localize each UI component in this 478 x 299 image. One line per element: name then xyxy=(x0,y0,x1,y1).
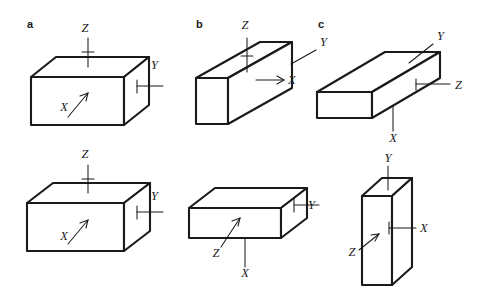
block-c-bottom xyxy=(359,166,416,285)
figure-container: a b c Z Y X Z Y X Z Y X Y Z X Y Z X Y X … xyxy=(0,0,478,299)
block-b-top xyxy=(196,38,316,124)
block-a-top xyxy=(31,38,163,125)
panel-letter-a: a xyxy=(27,18,34,30)
axis-label-y: Y xyxy=(151,58,160,72)
block-b-top-left-face xyxy=(196,78,228,124)
block-c-bottom-front-face xyxy=(362,196,392,285)
axis-label-z: Z xyxy=(455,78,463,92)
axis-label-x: X xyxy=(287,73,297,87)
panel-letter-c: c xyxy=(318,18,324,30)
block-b-bottom xyxy=(189,188,319,267)
axis-orientation-figure: a b c Z Y X Z Y X Z Y X Y Z X Y Z X Y X … xyxy=(0,0,478,299)
axis-label-z: Z xyxy=(242,18,250,32)
block-c-top xyxy=(317,44,450,131)
axis-label-y: Y xyxy=(320,35,329,49)
block-c-bottom-right-face xyxy=(392,178,412,285)
axis-label-x: X xyxy=(59,100,69,114)
axis-label-x: X xyxy=(388,131,398,145)
axis-label-z: Z xyxy=(82,21,90,35)
axis-label-x: X xyxy=(59,229,69,243)
axis-label-y: Y xyxy=(437,29,446,43)
axis-label-z: Z xyxy=(349,245,357,259)
axis-label-z: Z xyxy=(82,147,90,161)
block-b-top-y-leader xyxy=(291,50,316,64)
block-a-bottom xyxy=(27,165,163,251)
block-c-top-left-face xyxy=(317,92,372,118)
block-a-top-front-face xyxy=(31,77,124,125)
axis-label-x: X xyxy=(240,266,250,280)
block-b-bottom-front-face xyxy=(189,208,281,238)
block-a-bottom-front-face xyxy=(27,203,124,251)
axis-label-z: Z xyxy=(213,246,221,260)
axis-label-y: Y xyxy=(385,151,394,165)
axis-label-y: Y xyxy=(151,189,160,203)
panel-letter-b: b xyxy=(196,18,203,30)
axis-label-x: X xyxy=(419,221,429,235)
